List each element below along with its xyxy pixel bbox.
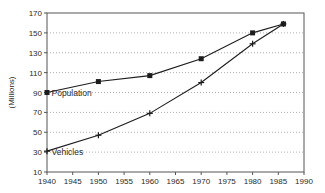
x-tick-label: 1945	[64, 177, 82, 186]
y-tick-label: 70	[33, 108, 42, 117]
square-marker	[147, 73, 152, 78]
series-label-population: Population	[52, 88, 92, 98]
y-tick-label: 30	[33, 148, 42, 157]
x-tick-label: 1970	[192, 177, 210, 186]
square-marker	[45, 90, 50, 95]
y-tick-label: 150	[29, 29, 43, 38]
x-tick-label: 1940	[38, 177, 56, 186]
x-tick-label: 1955	[115, 177, 133, 186]
x-tick-label: 1975	[218, 177, 236, 186]
square-marker	[250, 30, 255, 35]
population-vehicles-chart-figure: 1030507090110130150170194019451950195519…	[0, 0, 325, 193]
x-tick-label: 1965	[167, 177, 185, 186]
y-axis-title: (Millions)	[7, 76, 16, 108]
y-tick-label: 110	[29, 69, 42, 78]
x-tick-label: 1980	[244, 177, 262, 186]
population-vehicles-line-chart: 1030507090110130150170194019451950195519…	[0, 0, 325, 193]
x-tick-label: 1985	[269, 177, 287, 186]
series-label-vehicles: Vehicles	[52, 147, 84, 157]
x-tick-label: 1990	[295, 177, 313, 186]
square-marker	[96, 79, 101, 84]
y-tick-label: 90	[33, 89, 42, 98]
square-marker	[199, 56, 204, 61]
y-tick-label: 50	[33, 128, 42, 137]
x-tick-label: 1950	[90, 177, 108, 186]
y-tick-label: 10	[33, 168, 42, 177]
y-tick-label: 170	[29, 9, 43, 18]
x-tick-label: 1960	[141, 177, 159, 186]
y-tick-label: 130	[29, 49, 43, 58]
